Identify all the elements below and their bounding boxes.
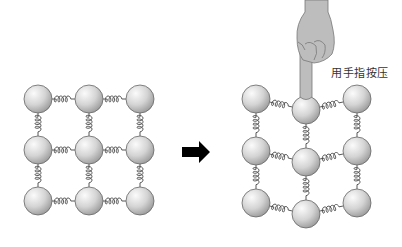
spring-icon [270, 100, 293, 108]
atom-ball [343, 85, 371, 113]
atom-ball [24, 85, 52, 113]
spring-icon [86, 113, 92, 136]
spring-icon [270, 204, 293, 212]
lattice-diagram [0, 0, 402, 247]
spring-icon [303, 124, 309, 148]
spring-icon [320, 101, 344, 110]
spring-icon [354, 165, 360, 189]
atom-ball [126, 187, 154, 215]
atom-ball [126, 85, 154, 113]
spring-icon [320, 153, 344, 162]
spring-icon [253, 113, 259, 137]
right-lattice-balls [242, 85, 371, 228]
spring-icon [35, 164, 41, 187]
spring-icon [253, 165, 259, 189]
atom-ball [75, 85, 103, 113]
atom-ball [343, 189, 371, 217]
spring-icon [354, 113, 360, 137]
atom-ball [242, 189, 270, 217]
spring-icon [303, 176, 309, 200]
pressing-hand-icon [297, 0, 334, 100]
spring-icon [320, 205, 344, 214]
spring-icon [103, 198, 126, 204]
atom-ball [292, 200, 320, 228]
spring-icon [52, 96, 75, 102]
spring-icon [52, 198, 75, 204]
atom-ball [75, 136, 103, 164]
spring-icon [35, 113, 41, 136]
spring-icon [270, 152, 293, 160]
spring-icon [137, 164, 143, 187]
spring-icon [52, 147, 75, 153]
spring-icon [137, 113, 143, 136]
press-with-finger-label: 用手指按压 [331, 64, 389, 80]
spring-icon [86, 164, 92, 187]
diagram-canvas: 用手指按压 [0, 0, 402, 247]
atom-ball [24, 136, 52, 164]
atom-ball [343, 137, 371, 165]
left-lattice-balls [24, 85, 154, 215]
spring-icon [103, 96, 126, 102]
atom-ball [292, 96, 320, 124]
arrow-right-icon [182, 141, 210, 163]
atom-ball [292, 148, 320, 176]
atom-ball [242, 137, 270, 165]
atom-ball [75, 187, 103, 215]
atom-ball [242, 85, 270, 113]
atom-ball [24, 187, 52, 215]
spring-icon [103, 147, 126, 153]
atom-ball [126, 136, 154, 164]
